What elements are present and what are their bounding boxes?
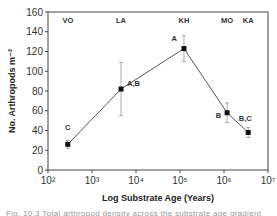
- x-tick-label: 10⁶: [216, 175, 231, 186]
- x-tick-label: 10²: [41, 175, 56, 186]
- y-tick-label: 20: [32, 145, 44, 156]
- x-axis-label: Log Substrate Age (Years): [102, 193, 214, 203]
- y-tick-label: 160: [26, 7, 43, 18]
- data-point: [119, 87, 124, 92]
- y-tick-label: 80: [32, 86, 44, 97]
- y-tick-label: 60: [32, 105, 44, 116]
- group-label: C: [65, 123, 71, 132]
- y-tick-label: 120: [26, 46, 43, 57]
- x-tick-label: 10⁷: [261, 175, 276, 186]
- data-point: [181, 46, 186, 51]
- site-label: VO: [62, 16, 73, 25]
- data-line: [68, 49, 248, 145]
- y-tick-label: 40: [32, 125, 44, 136]
- y-axis-ticks: 020406080100120140160: [26, 7, 48, 176]
- x-tick-label: 10⁴: [128, 175, 143, 186]
- group-label: B: [216, 111, 222, 120]
- data-point: [65, 142, 70, 147]
- group-label: A: [172, 34, 178, 43]
- site-label: KA: [243, 16, 254, 25]
- y-tick-label: 0: [37, 165, 43, 176]
- error-bars: [66, 36, 250, 149]
- data-point: [246, 130, 251, 135]
- x-tick-label: 10³: [85, 175, 100, 186]
- x-axis-ticks: 10²10³10⁴10⁵10⁶10⁷: [41, 170, 276, 186]
- group-label: A,B: [127, 79, 141, 88]
- site-label: MO: [221, 16, 233, 25]
- plot-area: [48, 12, 268, 170]
- y-tick-label: 140: [26, 26, 43, 37]
- group-label: B,C: [239, 114, 253, 123]
- figure-caption: Fig. 10.3 Total arthropod density across…: [6, 209, 261, 216]
- x-tick-label: 10⁵: [172, 175, 187, 186]
- site-label: LA: [116, 16, 127, 25]
- site-labels: VOLAKHMOKA: [62, 16, 254, 25]
- data-markers: [65, 46, 250, 147]
- y-tick-label: 100: [26, 66, 43, 77]
- data-point: [225, 110, 230, 115]
- site-label: KH: [179, 16, 190, 25]
- y-axis-label: No. Arthropods m⁻²: [7, 49, 17, 133]
- line-chart: 020406080100120140160 10²10³10⁴10⁵10⁶10⁷…: [0, 0, 277, 210]
